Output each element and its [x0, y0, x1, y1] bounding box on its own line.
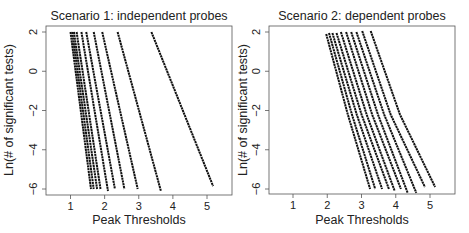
y-tick-label: 0 — [27, 68, 39, 74]
data-lines — [326, 31, 435, 193]
x-tick-label: 4 — [393, 199, 399, 211]
y-axis: 20−2−4−6 — [27, 29, 46, 195]
x-axis: 12345 — [290, 194, 433, 211]
y-axis-label: Ln(# of significant tests) — [2, 44, 16, 176]
x-axis: 12345 — [67, 195, 210, 212]
figure-canvas: Scenario 1: independent probes 20−2−4−6 … — [0, 0, 469, 233]
panel-scenario-1: Scenario 1: independent probes 20−2−4−6 … — [2, 9, 232, 227]
data-line — [362, 31, 425, 187]
y-tick-label: −6 — [27, 183, 39, 196]
x-axis-label: Peak Thresholds — [92, 213, 186, 227]
data-line — [332, 33, 382, 189]
y-tick-label: −4 — [250, 143, 262, 156]
y-axis: 20−2−4−6 — [250, 29, 269, 195]
y-tick-label: −6 — [250, 183, 262, 196]
data-line — [118, 32, 161, 191]
x-tick-label: 3 — [358, 199, 364, 211]
data-line — [329, 33, 375, 189]
x-tick-label: 2 — [102, 200, 108, 212]
y-tick-label: 2 — [250, 29, 262, 35]
x-tick-label: 1 — [290, 199, 296, 211]
chart-figure: Scenario 1: independent probes 20−2−4−6 … — [0, 0, 469, 233]
y-tick-label: 0 — [250, 68, 262, 74]
panel-scenario-2: Scenario 2: dependent probes 20−2−4−6 12… — [236, 9, 455, 227]
x-tick-label: 4 — [170, 200, 176, 212]
y-tick-label: −2 — [250, 104, 262, 117]
data-line — [151, 32, 213, 186]
y-tick-label: −4 — [27, 143, 39, 156]
chart-title: Scenario 1: independent probes — [50, 9, 227, 23]
x-tick-label: 1 — [67, 200, 73, 212]
x-tick-label: 2 — [324, 199, 330, 211]
x-tick-label: 5 — [427, 199, 433, 211]
data-line — [341, 32, 395, 191]
x-tick-label: 5 — [204, 200, 210, 212]
y-tick-label: 2 — [27, 29, 39, 35]
data-lines — [71, 32, 214, 191]
x-axis-label: Peak Thresholds — [315, 213, 409, 227]
y-axis-label: Ln(# of significant tests) — [236, 44, 250, 176]
chart-title: Scenario 2: dependent probes — [278, 9, 446, 23]
x-tick-label: 3 — [136, 200, 142, 212]
y-tick-label: −2 — [27, 104, 39, 117]
